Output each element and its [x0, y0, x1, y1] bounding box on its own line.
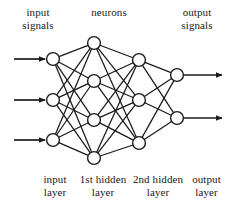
connection-edge — [100, 145, 133, 156]
label-output-signals: output signals — [168, 6, 226, 31]
neuron-node-output-2 — [171, 112, 184, 125]
connection-edge — [145, 62, 171, 72]
neuron-node-hidden2-1 — [133, 54, 146, 67]
neuron-node-input-3 — [47, 134, 60, 147]
connection-edge — [59, 62, 89, 78]
label-input-signals: input signals — [8, 6, 68, 31]
connection-edge — [100, 63, 133, 79]
neuron-node-input-1 — [47, 53, 60, 66]
neuron-node-hidden1-2 — [88, 75, 101, 88]
connection-edge — [98, 48, 135, 95]
label-2nd-hidden-layer: 2nd hidden layer — [126, 173, 190, 198]
connection-edge — [57, 86, 91, 134]
connection-edge — [144, 122, 171, 140]
neuron-node-input-2 — [47, 94, 60, 107]
connection-edge — [59, 45, 88, 56]
neural-network-diagram: input signals neurons output signals inp… — [0, 0, 231, 208]
connection-edge — [144, 79, 171, 97]
neuron-node-hidden2-3 — [133, 137, 146, 150]
neuron-node-hidden1-3 — [88, 114, 101, 127]
connection-edge — [57, 105, 91, 153]
neuron-node-hidden1-4 — [88, 152, 101, 165]
connection-edge — [100, 123, 134, 140]
connection-edge — [98, 65, 135, 115]
label-output-layer: output layer — [184, 173, 229, 198]
label-1st-hidden-layer: 1st hidden layer — [72, 173, 134, 198]
neuron-node-output-1 — [171, 69, 184, 82]
neuron-node-hidden1-1 — [88, 37, 101, 50]
label-neurons: neurons — [78, 6, 140, 19]
neuron-node-hidden2-2 — [133, 94, 146, 107]
connection-edges — [55, 45, 173, 156]
